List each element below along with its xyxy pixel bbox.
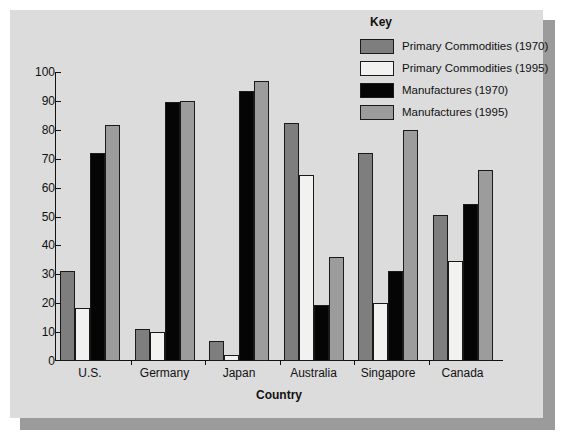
legend-item: Manufactures (1995) <box>360 101 545 123</box>
legend-item: Primary Commodities (1995) <box>360 57 545 79</box>
legend-label: Primary Commodities (1995) <box>402 62 548 74</box>
y-tick-label: 80 <box>19 124 55 136</box>
x-group-separator <box>131 361 132 365</box>
y-tick-label: 50 <box>19 211 55 223</box>
y-tick-30: 30 <box>10 274 55 275</box>
legend-title: Key <box>370 15 545 29</box>
x-group-separator <box>280 361 281 365</box>
legend-swatch <box>360 83 394 98</box>
bar <box>284 123 299 361</box>
x-category-label: U.S. <box>53 367 127 380</box>
legend-swatch <box>360 105 394 120</box>
bar <box>75 308 90 361</box>
y-tick-label: 10 <box>19 326 55 338</box>
bar <box>135 329 150 361</box>
y-tick-label: 70 <box>19 153 55 165</box>
legend-swatch <box>360 39 394 54</box>
y-tick-label: 60 <box>19 182 55 194</box>
bar <box>314 305 329 361</box>
bar <box>329 257 344 361</box>
bar <box>373 303 388 361</box>
legend-item: Primary Commodities (1970) <box>360 35 545 57</box>
chart-panel: 0102030405060708090100 U.S.GermanyJapanA… <box>10 10 543 418</box>
x-category-label: Germany <box>128 367 202 380</box>
y-tick-label: 100 <box>19 66 55 78</box>
bar <box>239 91 254 361</box>
y-tick-70: 70 <box>10 159 55 160</box>
y-tick-label: 40 <box>19 239 55 251</box>
bar <box>478 170 493 361</box>
x-category-label: Canada <box>426 367 500 380</box>
bar <box>90 153 105 361</box>
x-group-separator <box>354 361 355 365</box>
y-tick-40: 40 <box>10 245 55 246</box>
bar <box>388 271 403 361</box>
legend-swatch <box>360 61 394 76</box>
legend-items: Primary Commodities (1970)Primary Commod… <box>360 35 545 123</box>
bar <box>433 215 448 361</box>
legend: Key Primary Commodities (1970)Primary Co… <box>360 15 545 123</box>
x-axis-title: Country <box>55 388 503 402</box>
bar <box>358 153 373 361</box>
legend-label: Manufactures (1970) <box>402 84 508 96</box>
y-tick-90: 90 <box>10 101 55 102</box>
y-tick-label: 90 <box>19 95 55 107</box>
y-tick-label: 30 <box>19 268 55 280</box>
x-category-label: Japan <box>202 367 276 380</box>
bar <box>60 271 75 361</box>
y-tick-label: 20 <box>19 297 55 309</box>
y-tick-80: 80 <box>10 130 55 131</box>
bar <box>105 125 120 361</box>
chart-figure: 0102030405060708090100 U.S.GermanyJapanA… <box>0 0 563 437</box>
bar <box>180 101 195 361</box>
y-tick-60: 60 <box>10 188 55 189</box>
bar <box>254 81 269 361</box>
legend-label: Manufactures (1995) <box>402 106 508 118</box>
bar <box>209 341 224 361</box>
y-tick-20: 20 <box>10 303 55 304</box>
bar <box>448 261 463 361</box>
y-tick-0: 0 <box>10 361 55 362</box>
legend-item: Manufactures (1970) <box>360 79 545 101</box>
bar <box>150 332 165 361</box>
bar <box>403 130 418 361</box>
x-category-label: Australia <box>277 367 351 380</box>
bar <box>463 204 478 362</box>
bar <box>224 355 239 361</box>
x-group-separator <box>429 361 430 365</box>
x-category-label: Singapore <box>351 367 425 380</box>
bar <box>165 102 180 361</box>
bar <box>299 175 314 361</box>
y-tick-label: 0 <box>19 355 55 367</box>
y-tick-50: 50 <box>10 217 55 218</box>
x-group-separator <box>205 361 206 365</box>
y-tick-10: 10 <box>10 332 55 333</box>
y-tick-100: 100 <box>10 72 55 73</box>
legend-label: Primary Commodities (1970) <box>402 40 548 52</box>
